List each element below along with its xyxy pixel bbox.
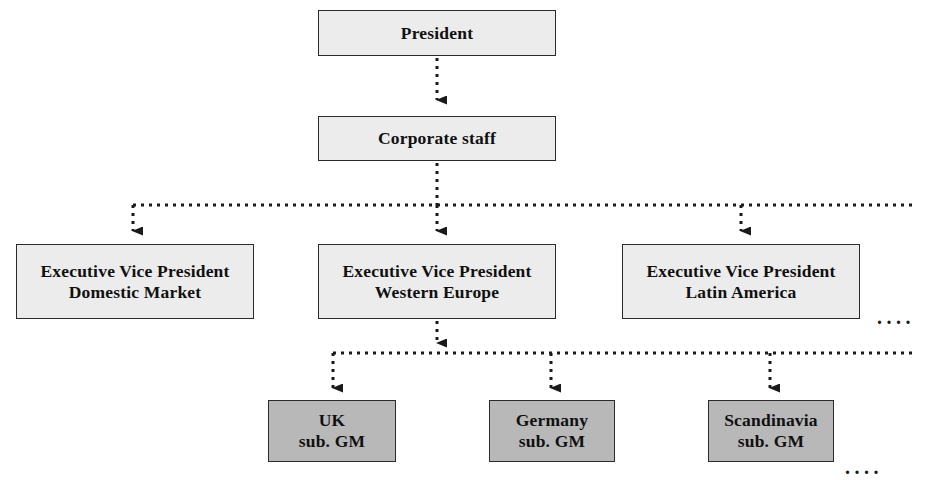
node-evp-western-europe[interactable]: Executive Vice President Western Europe xyxy=(318,244,556,319)
node-evp-latin-america-line-1: Executive Vice President xyxy=(646,261,835,282)
node-germany-sub-gm-line-1: Germany xyxy=(516,410,588,431)
node-uk-sub-gm-line-1: UK xyxy=(319,410,346,431)
node-scandinavia-sub-gm[interactable]: Scandinavia sub. GM xyxy=(708,400,834,462)
node-scandinavia-sub-gm-line-2: sub. GM xyxy=(738,431,805,452)
ellipsis-subsidiary-row: .... xyxy=(845,456,883,479)
node-president-line-1: President xyxy=(401,23,473,44)
node-scandinavia-sub-gm-line-1: Scandinavia xyxy=(724,410,818,431)
node-corporate-staff-line-1: Corporate staff xyxy=(378,128,496,149)
node-germany-sub-gm-line-2: sub. GM xyxy=(519,431,586,452)
node-evp-western-europe-line-1: Executive Vice President xyxy=(342,261,531,282)
org-chart-canvas: President Corporate staff Executive Vice… xyxy=(0,0,934,493)
node-president[interactable]: President xyxy=(318,10,556,56)
node-corporate-staff[interactable]: Corporate staff xyxy=(318,116,556,161)
node-uk-sub-gm-line-2: sub. GM xyxy=(299,431,366,452)
node-evp-domestic-market-line-1: Executive Vice President xyxy=(40,261,229,282)
ellipsis-evp-row: .... xyxy=(877,306,915,329)
node-uk-sub-gm[interactable]: UK sub. GM xyxy=(268,400,396,462)
node-evp-latin-america-line-2: Latin America xyxy=(686,282,797,303)
node-evp-domestic-market-line-2: Domestic Market xyxy=(69,282,202,303)
node-evp-latin-america[interactable]: Executive Vice President Latin America xyxy=(622,244,860,319)
node-evp-western-europe-line-2: Western Europe xyxy=(375,282,500,303)
node-evp-domestic-market[interactable]: Executive Vice President Domestic Market xyxy=(16,244,254,319)
node-germany-sub-gm[interactable]: Germany sub. GM xyxy=(489,400,615,462)
